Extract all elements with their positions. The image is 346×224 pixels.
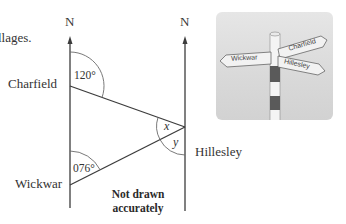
north-arrow-icon — [68, 36, 73, 44]
north-arrow-icon — [183, 36, 188, 44]
north-line-right — [183, 36, 188, 211]
angle-x: x — [164, 119, 169, 134]
north-label-right: N — [180, 14, 189, 30]
label-charfield: Charfield — [8, 76, 57, 92]
label-hillesley: Hillesley — [195, 144, 242, 160]
signpost-photo: Wickwar Charfield Hillesley — [216, 12, 333, 120]
not-drawn-accurately-note: Not drawn accurately — [98, 187, 178, 215]
label-wickwar: Wickwar — [15, 176, 62, 192]
arc-x — [157, 117, 160, 139]
north-label-left: N — [65, 14, 74, 30]
north-line-left — [68, 36, 73, 208]
note-line-1: Not drawn — [98, 187, 178, 201]
sign-wickwar: Wickwar — [231, 53, 258, 61]
bearing-076: 076° — [73, 162, 95, 174]
angle-y: y — [173, 135, 178, 150]
bearing-120: 120° — [74, 69, 96, 81]
note-line-2: accurately — [98, 201, 178, 215]
signpost-icon — [216, 12, 333, 120]
